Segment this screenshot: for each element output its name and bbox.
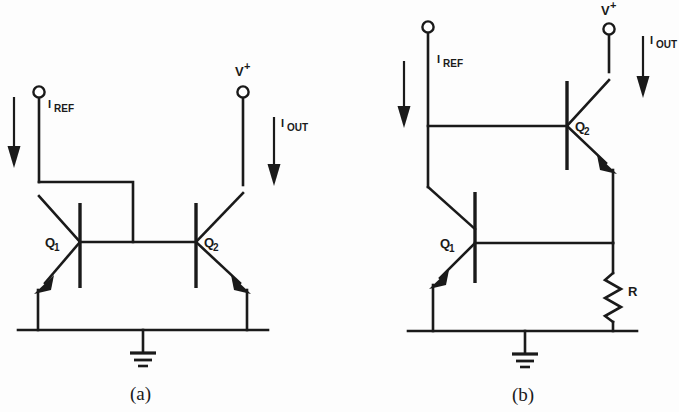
iout-current-arrow-a — [268, 117, 281, 186]
iout-current-arrow-b — [637, 36, 650, 98]
q1-label-a: Q 1 — [45, 235, 60, 253]
resistor-r-b: R — [605, 243, 638, 331]
iout-sub-text-b: OUT — [656, 39, 677, 50]
iref-to-q1-emitter-wire-b — [428, 187, 475, 229]
iout-i-text-b: I — [650, 34, 653, 46]
vplus-sup-text-b: + — [610, 0, 616, 11]
transistor-q2-a — [196, 193, 251, 330]
iref-i-text-b: I — [437, 53, 440, 65]
vplus-sup-text: + — [244, 60, 250, 72]
iref-current-arrow-a — [8, 97, 21, 168]
resistor-label-text: R — [628, 284, 638, 299]
ground-symbol-a — [130, 330, 156, 366]
terminal-iref-a — [33, 86, 44, 182]
iref-i-text: I — [48, 98, 51, 110]
iout-sub-text: OUT — [287, 122, 308, 133]
iout-i-text: I — [281, 117, 284, 129]
iref-sub-text: REF — [54, 103, 74, 114]
iref-sub-text-b: REF — [443, 58, 463, 69]
iref-current-arrow-b — [398, 61, 411, 128]
vplus-label-a: V + — [235, 60, 250, 79]
figure-container: I REF V + I OUT — [0, 0, 679, 412]
caption-a: (a) — [130, 383, 151, 405]
iout-label-b: I OUT — [650, 34, 677, 50]
ground-symbol-b — [512, 331, 538, 367]
vplus-v-text-b: V — [601, 3, 610, 18]
q1-label-b: Q 1 — [440, 236, 455, 254]
transistor-q1-a — [34, 196, 196, 330]
iref-label-a: I REF — [48, 98, 74, 114]
q1-sub-text-b: 1 — [449, 243, 455, 254]
iout-label-a: I OUT — [281, 117, 308, 133]
transistor-q2-b — [567, 80, 617, 243]
iref-label-b: I REF — [437, 53, 463, 69]
caption-b: (b) — [512, 384, 534, 406]
q2-sub-text-b: 2 — [584, 126, 590, 137]
q2-sub-text: 2 — [213, 242, 219, 253]
vplus-label-b: V + — [601, 0, 616, 18]
circuit-diagram-a: I REF V + I OUT — [0, 0, 340, 412]
terminal-vplus-a — [237, 86, 248, 185]
terminal-vplus-b — [603, 23, 614, 72]
vplus-v-text: V — [235, 64, 244, 79]
q1-sub-text: 1 — [54, 242, 60, 253]
terminal-iref-b — [422, 21, 433, 187]
circuit-diagram-b: I REF V + I OUT — [340, 0, 679, 412]
